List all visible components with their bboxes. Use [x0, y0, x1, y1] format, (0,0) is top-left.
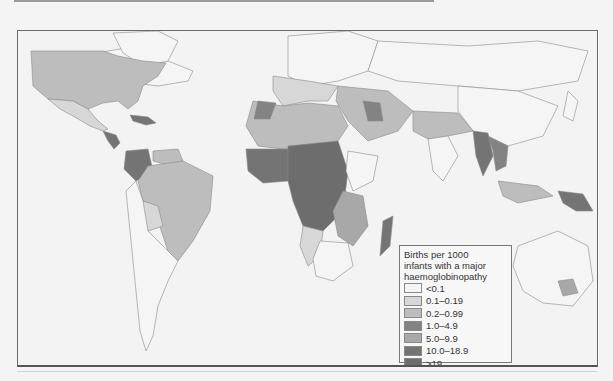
- legend-item: 1.0–4.9: [404, 320, 507, 333]
- region-japan: [563, 91, 578, 121]
- region-russia: [368, 41, 588, 91]
- legend-swatch: [404, 283, 422, 293]
- region-caribbean: [130, 115, 156, 125]
- legend-item: 0.2–0.99: [404, 307, 507, 320]
- region-europe-north: [288, 31, 378, 86]
- region-madagascar: [380, 216, 393, 256]
- legend-item: <0.1: [404, 282, 507, 295]
- legend-label: 5.0–9.9: [426, 333, 458, 344]
- legend-label: 10.0–18.9: [426, 345, 468, 356]
- legend-label: 1.0–4.9: [426, 320, 458, 331]
- legend-item: >19: [404, 357, 507, 367]
- legend-label: >19: [426, 358, 442, 367]
- legend-label: 0.1–0.19: [426, 295, 463, 306]
- region-australia: [513, 231, 593, 306]
- region-indonesia: [498, 181, 553, 203]
- legend-swatch: [404, 296, 422, 306]
- legend-item: 5.0–9.9: [404, 332, 507, 345]
- legend-item: 10.0–18.9: [404, 345, 507, 358]
- region-horn-africa: [346, 151, 378, 191]
- region-central-america: [103, 131, 120, 149]
- bottom-rule: [17, 371, 597, 372]
- map-legend: Births per 1000 infants with a major hae…: [399, 245, 512, 363]
- legend-label: <0.1: [426, 283, 445, 294]
- region-india: [428, 136, 458, 181]
- legend-swatch: [404, 308, 422, 318]
- legend-title-line: Births per 1000: [404, 249, 507, 260]
- region-png: [558, 191, 593, 211]
- legend-title-line: haemoglobinopathy: [404, 271, 507, 282]
- top-rule: [14, 0, 434, 2]
- region-china: [458, 86, 558, 146]
- legend-swatch: [404, 321, 422, 331]
- legend-item: 0.1–0.19: [404, 295, 507, 308]
- legend-title-line: infants with a major: [404, 260, 507, 271]
- legend-swatch: [404, 333, 422, 343]
- legend-label: 0.2–0.99: [426, 308, 463, 319]
- legend-swatch: [404, 346, 422, 356]
- legend-swatch: [404, 358, 422, 367]
- map-frame: Births per 1000 infants with a major hae…: [17, 30, 598, 367]
- region-southern-africa: [313, 241, 353, 281]
